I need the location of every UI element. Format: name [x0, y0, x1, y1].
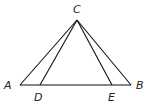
segment-ce: [77, 20, 112, 85]
segment-cb: [77, 20, 131, 85]
point-labels: C A B D E: [3, 3, 144, 104]
label-c: C: [73, 3, 81, 16]
label-a: A: [3, 79, 12, 92]
triangle-diagram: C A B D E: [0, 0, 150, 110]
label-b: B: [136, 79, 144, 92]
label-d: D: [34, 91, 42, 104]
segment-ca: [20, 20, 77, 85]
segment-cd: [40, 20, 77, 85]
segments: [20, 20, 131, 85]
label-e: E: [108, 91, 115, 104]
